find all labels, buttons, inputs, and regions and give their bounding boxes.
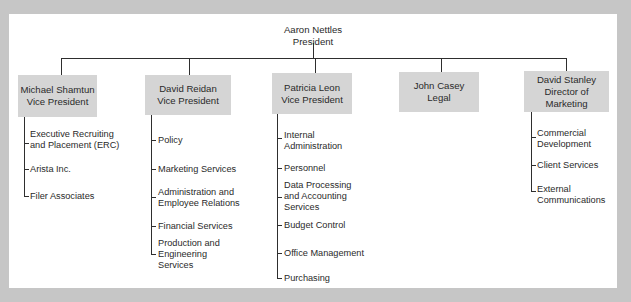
child-item: Internal Administration [284, 130, 342, 152]
child-item: Client Services [537, 160, 598, 171]
child-item: Policy [158, 135, 183, 146]
dept-title-line-2: Marketing [545, 98, 587, 110]
child-line: Administration and [158, 187, 240, 198]
dept-title: Vice President [27, 96, 89, 108]
dept-box-michael-shamtun: Michael Shamtun Vice President [18, 75, 97, 117]
president-name-text: Aaron Nettles [263, 24, 363, 36]
child-line: External [537, 184, 605, 195]
child-line: Production and [158, 238, 220, 249]
dept-box-patricia-leon: Patricia Leon Vice President [272, 73, 352, 114]
child-line: Development [537, 139, 591, 150]
president-label: Aaron Nettles President [263, 24, 363, 48]
children-line-dept-1 [24, 117, 25, 197]
tick [24, 143, 29, 144]
child-item: Marketing Services [158, 164, 236, 175]
child-item: Financial Services [158, 221, 233, 232]
tick [277, 225, 282, 226]
dept-box-john-casey: John Casey Legal [399, 72, 479, 112]
child-line: Communications [537, 195, 605, 206]
tick [531, 137, 536, 138]
children-line-dept-5 [531, 112, 532, 192]
president-title-text: President [263, 36, 363, 48]
connector-dept-4 [441, 58, 442, 72]
child-item: External Communications [537, 184, 605, 206]
dept-name: Michael Shamtun [20, 84, 94, 96]
dept-box-david-stanley: David Stanley Director of Marketing [524, 71, 609, 112]
tick [151, 169, 156, 170]
tick [277, 278, 282, 279]
child-line: Executive Recruiting [30, 129, 119, 140]
connector-dept-2 [189, 58, 190, 75]
child-line: and Placement (ERC) [30, 140, 119, 151]
dept-name: John Casey [414, 80, 465, 92]
child-line: and Accounting [284, 191, 351, 202]
child-item: Purchasing [284, 273, 330, 284]
child-item: Administration and Employee Relations [158, 187, 240, 209]
tick [151, 197, 156, 198]
dept-name: David Stanley [537, 74, 596, 86]
child-line: Budget Control [284, 220, 345, 231]
tick [277, 168, 282, 169]
child-item: Personnel [284, 163, 325, 174]
top-horizontal-connector [61, 58, 567, 59]
child-line: Financial Services [158, 221, 233, 232]
child-line: Employee Relations [158, 198, 240, 209]
child-line: Filer Associates [30, 191, 94, 202]
child-line: Policy [158, 135, 183, 146]
children-line-dept-2 [151, 115, 152, 255]
dept-title: Vice President [157, 95, 219, 107]
child-item: Executive Recruiting and Placement (ERC) [30, 129, 119, 151]
child-item: Commercial Development [537, 128, 591, 150]
dept-title: Vice President [281, 94, 343, 106]
dept-title: Director of [544, 86, 588, 98]
child-line: Office Management [284, 248, 364, 259]
tick [151, 140, 156, 141]
child-line: Personnel [284, 163, 325, 174]
child-line: Engineering [158, 249, 220, 260]
child-item: Data Processing and Accounting Services [284, 180, 351, 213]
child-item: Office Management [284, 248, 364, 259]
dept-box-david-reidan: David Reidan Vice President [145, 75, 231, 115]
tick [277, 138, 282, 139]
connector-dept-1 [61, 58, 62, 75]
child-item: Arista Inc. [30, 164, 71, 175]
tick [531, 191, 536, 192]
child-line: Internal [284, 130, 342, 141]
child-line: Marketing Services [158, 164, 236, 175]
tick [277, 253, 282, 254]
tick [151, 254, 156, 255]
child-line: Purchasing [284, 273, 330, 284]
tick [531, 165, 536, 166]
connector-dept-5 [566, 58, 567, 71]
tick [151, 226, 156, 227]
dept-title: Legal [427, 92, 450, 104]
child-line: Arista Inc. [30, 164, 71, 175]
child-line: Services [158, 260, 220, 271]
child-line: Commercial [537, 128, 591, 139]
child-line: Administration [284, 141, 342, 152]
child-item: Filer Associates [30, 191, 94, 202]
tick [277, 197, 282, 198]
tick [24, 196, 29, 197]
dept-name: David Reidan [159, 83, 217, 95]
tick [24, 169, 29, 170]
child-item: Budget Control [284, 220, 345, 231]
connector-dept-3 [315, 58, 316, 73]
child-item: Production and Engineering Services [158, 238, 220, 271]
child-line: Services [284, 202, 351, 213]
child-line: Client Services [537, 160, 598, 171]
child-line: Data Processing [284, 180, 351, 191]
dept-name: Patricia Leon [284, 82, 340, 94]
